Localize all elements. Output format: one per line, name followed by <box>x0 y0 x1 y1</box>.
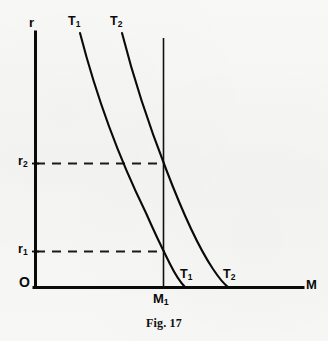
plot-canvas <box>0 0 328 341</box>
origin-label: O <box>19 275 30 289</box>
y-axis-label: r <box>29 16 34 29</box>
y-tick-label-r1: r1 <box>18 243 28 256</box>
curve-label-t2-bottom-subscript: 2 <box>231 272 236 282</box>
curve-label-t1-top-text: T <box>68 14 76 28</box>
curve-label-t1-bottom-subscript: 1 <box>188 272 193 282</box>
x-axis-label: M <box>306 278 317 291</box>
curve-label-t2-bottom: T2 <box>223 268 235 281</box>
curve-label-t1-top: T1 <box>68 15 80 28</box>
x-tick-label-m1: M1 <box>153 292 169 305</box>
curve-t2 <box>122 33 228 287</box>
curve-label-t2-top-text: T <box>110 14 118 28</box>
y-tick-label-r2: r2 <box>18 155 28 168</box>
curve-label-t1-top-subscript: 1 <box>76 19 81 29</box>
x-tick-label-m1-subscript: 1 <box>164 297 169 307</box>
figure-container: r M O r2 r1 T1 T2 T1 T2 M1 Fig. 17 <box>0 0 328 341</box>
y-tick-label-r2-subscript: 2 <box>23 159 28 169</box>
curve-label-t2-top-subscript: 2 <box>118 19 123 29</box>
figure-caption: Fig. 17 <box>0 316 328 331</box>
curve-label-t2-top: T2 <box>110 15 122 28</box>
curve-label-t2-bottom-text: T <box>223 267 231 281</box>
y-tick-label-r1-subscript: 1 <box>23 247 28 257</box>
x-tick-label-m1-text: M <box>153 291 164 306</box>
curve-label-t1-bottom: T1 <box>180 268 192 281</box>
curve-label-t1-bottom-text: T <box>180 267 188 281</box>
